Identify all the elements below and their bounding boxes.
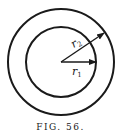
concentric-circles-diagram: r2 r1 — [0, 0, 121, 118]
r1-label: r1 — [72, 65, 82, 79]
figure-caption: FIG. 56. — [0, 122, 121, 132]
diagram-svg: r2 r1 — [0, 0, 121, 118]
r2-label: r2 — [68, 35, 83, 52]
